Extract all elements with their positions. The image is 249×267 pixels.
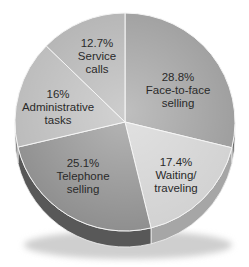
label-telephone-selling: 25.1%Telephoneselling bbox=[56, 157, 109, 196]
label-administrative-tasks: 16%Administrativetasks bbox=[22, 88, 94, 127]
label-face-to-face: 28.8%Face-to-faceselling bbox=[146, 71, 211, 110]
label-service-calls: 12.7%Servicecalls bbox=[78, 37, 116, 76]
pie-chart bbox=[0, 0, 249, 267]
label-waiting-traveling: 17.4%Waiting/traveling bbox=[154, 156, 197, 195]
